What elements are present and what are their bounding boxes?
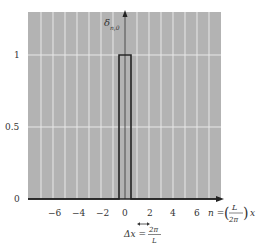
svg-text:2π: 2π <box>228 216 238 224</box>
svg-text:2π: 2π <box>148 226 158 234</box>
x-tick-0: 0 <box>122 208 128 218</box>
y-axis-label-subscript: n,0 <box>110 24 120 31</box>
svg-text:): ) <box>243 205 248 221</box>
left-arrow-icon <box>137 222 140 225</box>
x-tick-2: 2 <box>147 208 153 218</box>
svg-text:L: L <box>151 237 157 245</box>
x-tick-m4: −4 <box>72 208 86 218</box>
x-tick-m2: −2 <box>96 208 109 218</box>
x-axis-label: n = ( L 2π ) x <box>208 203 255 224</box>
plot-area <box>28 12 221 199</box>
chart: 1 0.5 0 −6 −4 −2 0 2 4 6 δ n,0 n = ( L 2… <box>0 0 272 251</box>
svg-text:n =: n = <box>208 208 224 218</box>
x-tick-6: 6 <box>194 208 200 218</box>
x-tick-4: 4 <box>170 208 176 218</box>
y-tick-1: 1 <box>14 50 20 60</box>
y-tick-0-5: 0.5 <box>5 122 20 132</box>
x-tick-m6: −6 <box>48 208 62 218</box>
y-tick-0: 0 <box>14 194 20 204</box>
svg-text:L: L <box>231 203 237 212</box>
svg-text:x: x <box>250 208 255 218</box>
delta-x-annotation: Δx = 2π L <box>123 226 161 245</box>
svg-text:Δx =: Δx = <box>123 229 146 239</box>
